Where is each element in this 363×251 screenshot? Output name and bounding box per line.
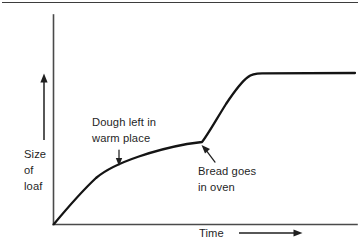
- y-axis-label-line2: of: [24, 164, 34, 176]
- y-axis-label-line3: loaf: [24, 180, 43, 192]
- annotation-oven-arrow: [202, 145, 216, 162]
- y-axis-label-line1: Size: [24, 148, 46, 160]
- y-axis-direction-arrow: [40, 74, 47, 141]
- annotation-dough-left-in-warm-place: Dough left in warm place: [91, 116, 156, 166]
- x-axis-direction-arrow: [239, 229, 303, 236]
- annotation-dough-line2: warm place: [91, 132, 150, 144]
- annotation-oven-line1: Bread goes: [198, 165, 257, 177]
- annotation-oven-line2: in oven: [198, 181, 235, 193]
- x-axis-label: Time: [199, 227, 224, 239]
- annotation-dough-line1: Dough left in: [92, 116, 156, 128]
- bread-rising-figure: Size of loaf Time Dough left in warm pla…: [0, 0, 363, 251]
- annotation-bread-goes-in-oven: Bread goes in oven: [198, 145, 257, 193]
- chart-canvas: Size of loaf Time Dough left in warm pla…: [0, 0, 363, 251]
